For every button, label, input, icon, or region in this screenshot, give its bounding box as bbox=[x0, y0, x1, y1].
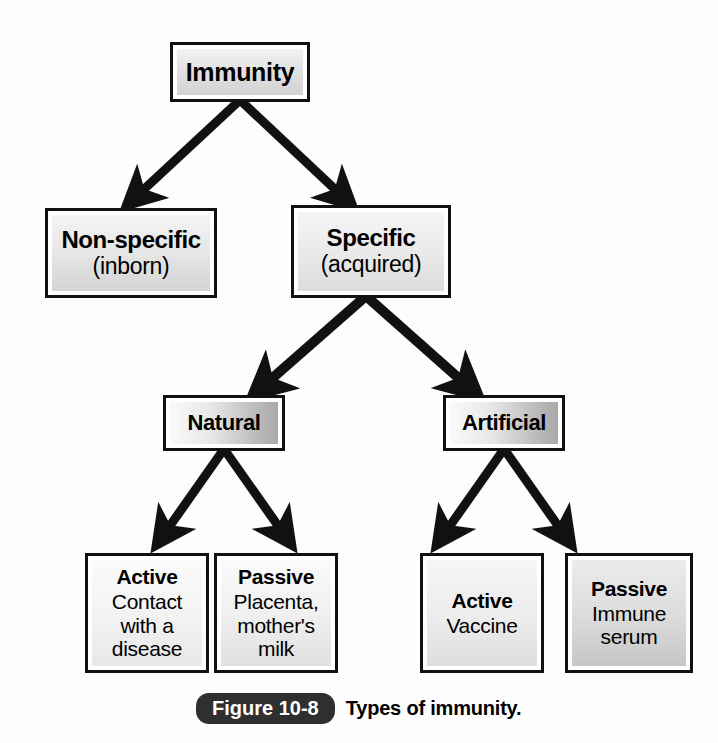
node-natural: Natural bbox=[163, 395, 285, 451]
node-artificial-passive: Passive Immune serum bbox=[565, 553, 693, 673]
node-natural-title: Natural bbox=[188, 411, 261, 436]
node-natural-passive-title: Passive bbox=[238, 565, 314, 589]
node-natural-active-panel: Active Contact with a disease bbox=[92, 560, 202, 666]
connector-immunity-to-nonspecific bbox=[140, 100, 240, 193]
node-artificial-passive-subtitle: Immune serum bbox=[572, 602, 686, 649]
node-natural-passive-panel: Passive Placenta, mother's milk bbox=[221, 560, 331, 666]
node-artificial-active-panel: Active Vaccine bbox=[427, 560, 537, 666]
node-artificial-passive-title: Passive bbox=[591, 577, 667, 601]
node-non-specific-title: Non-specific bbox=[61, 227, 200, 254]
connector-artificial-to-passive bbox=[504, 449, 561, 530]
node-artificial-panel: Artificial bbox=[450, 402, 558, 444]
connector-artificial-to-active bbox=[447, 449, 504, 530]
node-specific-panel: Specific (acquired) bbox=[298, 212, 444, 291]
connector-specific-to-natural bbox=[268, 296, 366, 382]
node-artificial-active-title: Active bbox=[451, 589, 512, 613]
connector-natural-to-active bbox=[167, 449, 224, 530]
node-non-specific-panel: Non-specific (inborn) bbox=[52, 215, 210, 291]
node-natural-panel: Natural bbox=[170, 402, 278, 444]
figure-caption: Figure 10-8 Types of immunity. bbox=[196, 693, 521, 724]
figure-caption-text: Types of immunity. bbox=[346, 697, 522, 720]
node-specific-subtitle: (acquired) bbox=[321, 252, 422, 278]
node-specific: Specific (acquired) bbox=[291, 205, 451, 298]
node-artificial-active: Active Vaccine bbox=[420, 553, 544, 673]
node-immunity: Immunity bbox=[170, 42, 310, 102]
node-artificial-title: Artificial bbox=[462, 411, 546, 436]
node-non-specific: Non-specific (inborn) bbox=[45, 208, 217, 298]
figure-number-badge: Figure 10-8 bbox=[196, 693, 335, 724]
figure-canvas: Immunity Non-specific (inborn) Specific … bbox=[0, 0, 718, 743]
node-natural-passive-subtitle: Placenta, mother's milk bbox=[221, 590, 331, 661]
node-non-specific-subtitle: (inborn) bbox=[93, 254, 170, 280]
connector-immunity-to-specific bbox=[240, 100, 339, 193]
node-natural-passive: Passive Placenta, mother's milk bbox=[214, 553, 338, 673]
node-artificial-passive-panel: Passive Immune serum bbox=[572, 560, 686, 666]
connector-specific-to-artificial bbox=[366, 296, 463, 382]
node-natural-active: Active Contact with a disease bbox=[85, 553, 209, 673]
connector-natural-to-passive bbox=[224, 449, 281, 530]
node-natural-active-title: Active bbox=[116, 565, 177, 589]
node-immunity-title: Immunity bbox=[186, 58, 295, 86]
node-immunity-panel: Immunity bbox=[177, 49, 303, 95]
node-artificial: Artificial bbox=[443, 395, 565, 451]
node-artificial-active-subtitle: Vaccine bbox=[446, 614, 517, 638]
node-specific-title: Specific bbox=[327, 225, 416, 252]
node-natural-active-subtitle: Contact with a disease bbox=[92, 590, 202, 661]
